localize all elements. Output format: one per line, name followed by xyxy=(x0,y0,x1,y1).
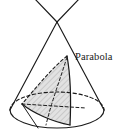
upper-nappe-right-edge xyxy=(57,0,80,22)
conic-diagram-svg xyxy=(0,0,123,131)
conic-section-figure: Parabola xyxy=(0,0,123,131)
cone-upper-nappe xyxy=(34,0,80,22)
parabola-label: Parabola xyxy=(75,52,113,63)
upper-nappe-left-edge xyxy=(34,0,57,22)
